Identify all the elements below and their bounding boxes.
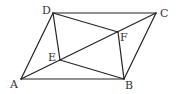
point-label-b: B: [125, 79, 133, 92]
segments-group: [21, 13, 156, 79]
point-label-a: A: [9, 78, 19, 91]
segment-be: [60, 60, 124, 79]
point-label-c: C: [160, 7, 168, 20]
point-label-e: E: [48, 51, 56, 64]
geometry-diagram: ABCDEF: [0, 0, 179, 94]
point-label-d: D: [42, 4, 51, 17]
segment-df: [53, 13, 118, 32]
segment-da: [21, 13, 53, 79]
point-label-f: F: [120, 31, 128, 44]
segment-bc: [124, 13, 156, 79]
